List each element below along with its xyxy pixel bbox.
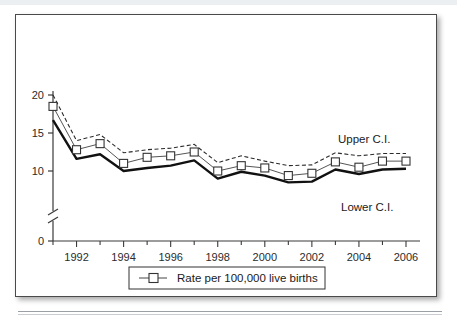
data-point-marker xyxy=(237,162,245,170)
series-upper-ci-line xyxy=(53,95,406,166)
data-point-marker xyxy=(49,102,57,110)
legend-sample-marker xyxy=(149,274,158,283)
x-tick-label: 2002 xyxy=(300,251,324,263)
data-point-marker xyxy=(355,163,363,171)
line-chart: 010152019921994199619982000200220042006U… xyxy=(16,15,436,296)
data-point-marker xyxy=(261,164,269,172)
series-lower-ci-line xyxy=(53,120,406,182)
y-tick-label: 20 xyxy=(32,89,44,101)
x-tick-label: 2004 xyxy=(347,251,371,263)
data-point-marker xyxy=(402,157,410,165)
data-point-marker xyxy=(331,158,339,166)
lower-ci-annotation: Lower C.I. xyxy=(341,201,393,213)
data-point-marker xyxy=(73,146,81,154)
data-point-marker xyxy=(96,140,104,148)
data-point-marker xyxy=(308,169,316,177)
x-tick-label: 2006 xyxy=(394,251,418,263)
x-tick-label: 1998 xyxy=(205,251,229,263)
x-tick-label: 1992 xyxy=(64,251,88,263)
footer-rule-bottom xyxy=(18,314,442,315)
data-point-marker xyxy=(120,159,128,167)
footer-rule-top xyxy=(18,311,442,312)
data-point-marker xyxy=(378,157,386,165)
x-tick-label: 1996 xyxy=(158,251,182,263)
data-point-marker xyxy=(190,148,198,156)
data-point-marker xyxy=(214,167,222,175)
y-tick-label: 15 xyxy=(32,127,44,139)
x-tick-label: 2000 xyxy=(253,251,277,263)
legend-label: Rate per 100,000 live births xyxy=(177,272,318,284)
y-tick-label: 10 xyxy=(32,165,44,177)
data-point-marker xyxy=(143,153,151,161)
data-point-marker xyxy=(284,172,292,180)
page-top-band xyxy=(0,0,457,5)
y-tick-label: 0 xyxy=(38,235,44,247)
upper-ci-annotation: Upper C.I. xyxy=(338,133,390,145)
x-tick-label: 1994 xyxy=(111,251,135,263)
data-point-marker xyxy=(167,152,175,160)
figure-frame: 010152019921994199619982000200220042006U… xyxy=(15,14,437,297)
